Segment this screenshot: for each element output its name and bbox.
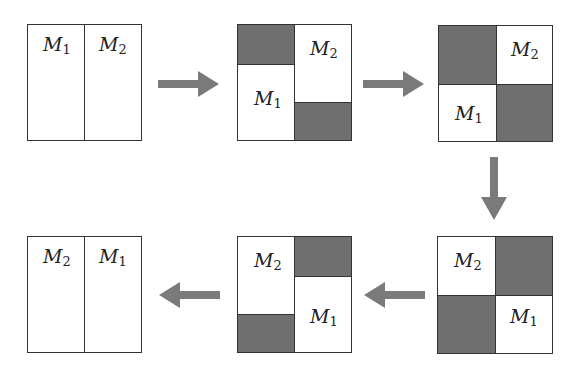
label-m1: M1 bbox=[43, 33, 71, 57]
arrow-left-icon bbox=[363, 281, 425, 309]
label-m1: M1 bbox=[510, 305, 538, 329]
stage-2-box: M1 M2 bbox=[237, 24, 352, 141]
label-m2: M2 bbox=[454, 249, 482, 273]
label-m1: M1 bbox=[455, 102, 483, 126]
arrow-down-icon bbox=[480, 157, 508, 221]
arrow-right-icon bbox=[158, 70, 220, 98]
shaded-region bbox=[439, 26, 496, 84]
divider bbox=[238, 64, 295, 65]
stage-5-box: M2 M1 bbox=[237, 236, 352, 353]
shaded-region bbox=[238, 314, 294, 352]
shaded-region bbox=[238, 25, 294, 64]
shaded-region bbox=[495, 237, 552, 295]
divider bbox=[84, 237, 85, 352]
divider bbox=[294, 276, 351, 277]
stage-3-box: M1 M2 bbox=[438, 25, 553, 142]
stage-4-box: M2 M1 bbox=[437, 236, 553, 354]
label-m2: M2 bbox=[43, 245, 71, 269]
label-m2: M2 bbox=[511, 38, 539, 62]
divider bbox=[84, 25, 85, 140]
divider bbox=[294, 237, 295, 352]
divider bbox=[439, 84, 552, 85]
divider bbox=[294, 25, 295, 140]
divider bbox=[294, 102, 351, 103]
divider bbox=[438, 295, 552, 296]
shaded-region bbox=[438, 295, 495, 353]
divider bbox=[238, 314, 295, 315]
shaded-region bbox=[496, 84, 552, 141]
shaded-region bbox=[294, 103, 351, 140]
label-m2: M2 bbox=[99, 33, 127, 57]
stage-6-box: M2 M1 bbox=[27, 236, 142, 353]
label-m1: M1 bbox=[254, 87, 282, 111]
stage-1-box: M1 M2 bbox=[27, 24, 142, 141]
arrow-left-icon bbox=[158, 281, 220, 309]
label-m2: M2 bbox=[254, 249, 282, 273]
label-m2: M2 bbox=[310, 37, 338, 61]
arrow-right-icon bbox=[363, 70, 425, 98]
label-m1: M1 bbox=[310, 305, 338, 329]
shaded-region bbox=[294, 237, 351, 276]
label-m1: M1 bbox=[99, 245, 127, 269]
